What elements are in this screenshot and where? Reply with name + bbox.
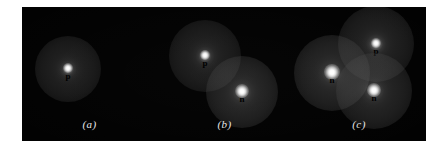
panel-a: p (a) — [22, 7, 157, 141]
figure-plate: p (a) pn (b) pnn (c) — [22, 7, 426, 141]
nucleon-proton — [35, 36, 101, 102]
panel-c-caption: (c) — [292, 119, 426, 130]
nucleon-neutron — [336, 53, 412, 129]
panel-c: pnn (c) — [292, 7, 426, 141]
figure-root: p (a) pn (b) pnn (c) — [0, 0, 445, 149]
panel-a-caption: (a) — [22, 119, 157, 130]
panel-b: pn (b) — [157, 7, 292, 141]
panel-b-caption: (b) — [157, 119, 292, 130]
